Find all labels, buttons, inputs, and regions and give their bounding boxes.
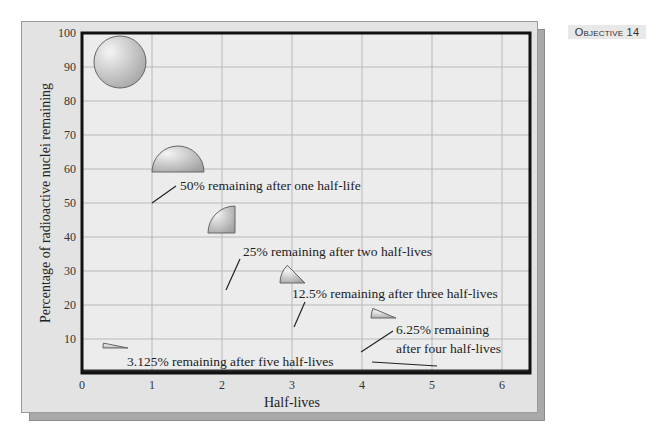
y-tick-label: 60 [64, 162, 76, 176]
y-tick-label: 40 [64, 230, 76, 244]
x-axis-ticks: 0123456 [79, 378, 505, 392]
y-tick-label: 30 [64, 264, 76, 278]
annotation-label: 50% remaining after one half-life [180, 178, 361, 193]
annotation-label: 12.5% remaining after three half-lives [292, 286, 498, 301]
y-tick-label: 20 [64, 298, 76, 312]
y-tick-label: 80 [64, 94, 76, 108]
y-tick-label: 50 [64, 196, 76, 210]
annotation-label: 3.125% remaining after five half-lives [127, 354, 334, 369]
x-tick-label: 2 [219, 378, 225, 392]
x-tick-label: 4 [359, 378, 365, 392]
annotation-label: 6.25% remaining [396, 322, 489, 337]
x-tick-label: 3 [289, 378, 295, 392]
x-tick-label: 0 [79, 378, 85, 392]
x-tick-label: 6 [499, 378, 505, 392]
x-axis-label: Half-lives [264, 395, 320, 410]
annotation-label: after four half-lives [396, 341, 501, 356]
x-tick-label: 5 [429, 378, 435, 392]
y-axis-ticks: 102030405060708090100 [58, 26, 76, 346]
annotation-label: 25% remaining after two half-lives [243, 244, 432, 259]
y-tick-label: 70 [64, 128, 76, 142]
decay-chart: 102030405060708090100 0123456 50% remain… [0, 0, 668, 442]
x-tick-label: 1 [149, 378, 155, 392]
y-tick-label: 90 [64, 60, 76, 74]
full-circle-icon [94, 36, 146, 88]
y-tick-label: 100 [58, 26, 76, 40]
y-axis-label: Percentage of radioactive nuclei remaini… [38, 83, 53, 323]
y-tick-label: 10 [64, 332, 76, 346]
